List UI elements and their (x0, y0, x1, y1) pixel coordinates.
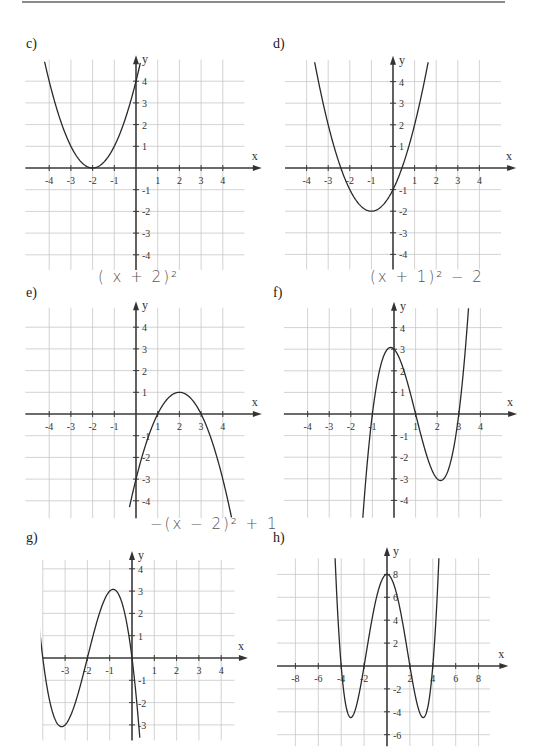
x-tick-label: 6 (453, 673, 458, 684)
chart-h: xy-8-6-4-224688642-2-4-6 (0, 0, 541, 755)
y-tick-label: -2 (393, 684, 401, 695)
y-tick-label: 8 (393, 569, 398, 580)
y-axis-label: y (393, 544, 399, 558)
y-tick-label: 4 (393, 615, 398, 626)
x-tick-label: 8 (476, 673, 481, 684)
y-tick-label: 2 (393, 638, 398, 649)
x-axis-label: x (498, 647, 504, 661)
y-tick-label: -4 (393, 707, 401, 718)
y-axis-arrow-icon (384, 547, 390, 556)
x-tick-label: -4 (337, 673, 345, 684)
y-tick-label: -6 (393, 730, 401, 741)
x-tick-label: -6 (314, 673, 322, 684)
grid-h (277, 558, 490, 746)
x-tick-label: -8 (291, 673, 299, 684)
x-axis-arrow-icon (499, 663, 508, 669)
